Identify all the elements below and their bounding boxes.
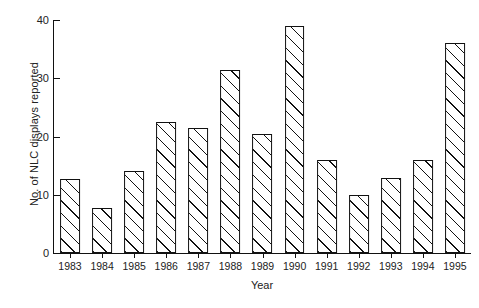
x-tick-label: 1985 — [123, 260, 146, 272]
y-tick-label: 20 — [37, 131, 49, 143]
x-axis-title: Year — [53, 279, 471, 291]
x-tick-mark — [391, 253, 392, 258]
bar — [92, 208, 112, 253]
bar-slot — [407, 20, 439, 253]
bar — [285, 26, 305, 253]
bar — [413, 160, 433, 253]
x-tick-mark — [102, 253, 103, 258]
x-tick-label: 1990 — [283, 260, 306, 272]
x-tick-label: 1988 — [219, 260, 242, 272]
x-tick-mark — [327, 253, 328, 258]
bar-slot — [343, 20, 375, 253]
x-tick-label: 1989 — [251, 260, 274, 272]
x-tick-mark — [134, 253, 135, 258]
x-tick-mark — [70, 253, 71, 258]
y-tick-label: 0 — [43, 247, 49, 259]
x-tick-label: 1993 — [379, 260, 402, 272]
bar — [124, 171, 144, 253]
x-tick-mark — [295, 253, 296, 258]
bar-slot — [246, 20, 278, 253]
chart-figure: No. of NLC displays reported 010203040 1… — [0, 0, 479, 308]
bar — [156, 122, 176, 253]
x-tick-label: 1991 — [315, 260, 338, 272]
bar-slot — [54, 20, 86, 253]
bar — [349, 195, 369, 253]
y-tick-label: 40 — [37, 14, 49, 26]
plot-area: 010203040 198319841985198619871988198919… — [53, 20, 471, 253]
x-tick-mark — [198, 253, 199, 258]
x-tick-label: 1992 — [347, 260, 370, 272]
x-tick-mark — [359, 253, 360, 258]
x-tick-label: 1994 — [411, 260, 434, 272]
bar-slot — [182, 20, 214, 253]
x-tick-mark — [166, 253, 167, 258]
bar-slot — [118, 20, 150, 253]
x-tick-mark — [423, 253, 424, 258]
bar-slot — [214, 20, 246, 253]
bar-slot — [375, 20, 407, 253]
bar — [381, 178, 401, 253]
y-tick-label: 10 — [37, 189, 49, 201]
bar-slot — [86, 20, 118, 253]
bar-slot — [279, 20, 311, 253]
bar-slot — [439, 20, 471, 253]
x-tick-label: 1984 — [90, 260, 113, 272]
y-tick-mark — [54, 253, 60, 254]
bar — [253, 134, 273, 253]
bar — [60, 179, 80, 253]
x-tick-mark — [455, 253, 456, 258]
x-tick-label: 1986 — [155, 260, 178, 272]
bar-group — [54, 20, 471, 253]
y-tick-label: 30 — [37, 72, 49, 84]
x-tick-label: 1995 — [443, 260, 466, 272]
bar-slot — [150, 20, 182, 253]
x-tick-mark — [230, 253, 231, 258]
x-tick-label: 1987 — [187, 260, 210, 272]
bar-slot — [311, 20, 343, 253]
x-tick-label: 1983 — [58, 260, 81, 272]
bar — [445, 43, 465, 253]
bar — [317, 160, 337, 253]
x-tick-mark — [263, 253, 264, 258]
bar — [220, 70, 240, 253]
bar — [188, 128, 208, 253]
